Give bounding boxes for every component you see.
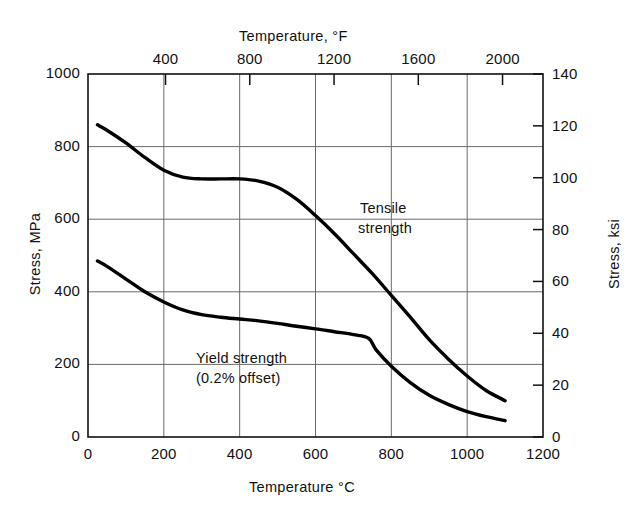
right-tick-label: 60: [552, 272, 569, 289]
bottom-tick-label: 800: [366, 445, 416, 462]
bottom-axis-title: Temperature °C: [249, 479, 355, 495]
top-tick-label: 400: [149, 50, 183, 67]
bottom-tick-label: 200: [139, 445, 189, 462]
right-tick-label: 140: [552, 65, 578, 82]
right-tick-label: 0: [552, 428, 561, 445]
bottom-tick-label: 400: [215, 445, 265, 462]
annotation-yield-line1: Yield strength: [196, 350, 287, 366]
chart-figure: Temperature, °F Temperature °C Stress, M…: [0, 0, 631, 514]
top-tick-label: 2000: [486, 50, 520, 67]
series-line-tensile-strength: [97, 125, 505, 401]
right-tick-label: 80: [552, 221, 569, 238]
top-tick-label: 1200: [317, 50, 351, 67]
bottom-tick-label: 0: [63, 445, 113, 462]
annotation-yield-line2: (0.2% offset): [196, 370, 281, 386]
right-tick-label: 120: [552, 117, 578, 134]
bottom-tick-label: 1000: [442, 445, 492, 462]
bottom-tick-label: 600: [291, 445, 341, 462]
left-tick-label: 800: [28, 137, 80, 154]
top-axis-ticks: [166, 74, 503, 85]
right-axis-ticks: [533, 74, 543, 437]
bottom-tick-label: 1200: [518, 445, 568, 462]
left-tick-label: 200: [28, 354, 80, 371]
annotation-tensile-line1: Tensile: [360, 200, 407, 216]
left-tick-label: 0: [28, 427, 80, 444]
right-tick-label: 20: [552, 376, 569, 393]
annotation-tensile-line2: strength: [358, 220, 412, 236]
left-tick-label: 600: [28, 209, 80, 226]
right-tick-label: 40: [552, 324, 569, 341]
top-tick-label: 800: [233, 50, 267, 67]
chart-canvas: [0, 0, 631, 514]
left-tick-label: 400: [28, 282, 80, 299]
series-line-yield-strength: [97, 261, 505, 421]
right-axis-title: Stress, ksi: [606, 210, 622, 298]
left-tick-label: 1000: [28, 64, 80, 81]
right-tick-label: 100: [552, 169, 578, 186]
top-tick-label: 1600: [401, 50, 435, 67]
top-axis-title: Temperature, °F: [239, 28, 348, 44]
